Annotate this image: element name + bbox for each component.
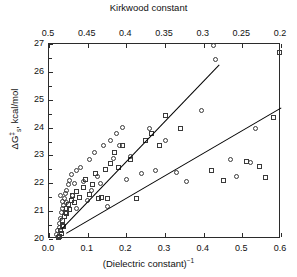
data-point-circle <box>124 177 129 182</box>
data-point-square <box>209 168 214 173</box>
data-point-square <box>67 207 72 212</box>
y-tick <box>49 72 53 73</box>
y-tick-label: 27 <box>26 39 44 48</box>
data-point-square <box>277 50 282 55</box>
data-point-circle <box>92 150 97 155</box>
data-point-square <box>263 175 268 180</box>
data-point-square <box>108 161 113 166</box>
y-tick <box>49 100 53 101</box>
data-point-circle <box>184 179 189 184</box>
x-tick-label: 0.5 <box>231 244 251 253</box>
y-minor-tick <box>49 86 52 87</box>
x-tick-label: 0.4 <box>193 244 213 253</box>
data-point-circle <box>111 156 116 161</box>
x-tick <box>49 233 50 237</box>
top-x-tick <box>126 44 127 48</box>
data-point-square <box>271 115 276 120</box>
data-point-square <box>103 167 108 172</box>
x-tick-label: 0.2 <box>115 244 135 253</box>
y-tick-label: 25 <box>26 95 44 104</box>
data-point-circle <box>153 168 158 173</box>
data-point-circle <box>120 125 125 130</box>
top-x-tick-label: 0.2 <box>268 29 292 38</box>
data-point-square <box>178 126 183 131</box>
data-point-circle <box>213 57 218 62</box>
data-point-circle <box>228 157 233 162</box>
data-point-circle <box>64 188 69 193</box>
y-minor-tick <box>49 58 52 59</box>
data-point-square <box>163 113 168 118</box>
data-point-square <box>257 164 262 169</box>
y-tick-label: 22 <box>26 178 44 187</box>
y-axis-subscript: s <box>15 129 22 132</box>
data-point-square <box>99 195 104 200</box>
data-point-square <box>83 177 88 182</box>
top-axis-title: Kirkwood constant <box>0 3 297 13</box>
x-tick-label: 0.3 <box>154 244 174 253</box>
data-point-square <box>120 143 125 148</box>
x-tick-label: 0.0 <box>38 244 58 253</box>
x-tick <box>204 233 205 237</box>
data-point-square <box>93 171 98 176</box>
scatter-figure: Kirkwood constant (Dielectric constant)−… <box>0 0 297 277</box>
data-point-circle <box>199 108 204 113</box>
y-minor-tick <box>49 225 52 226</box>
y-tick-label: 23 <box>26 150 44 159</box>
y-axis-title: ΔG‡s, kcal/mol <box>8 76 22 162</box>
trend-line-upper-fit <box>61 65 219 230</box>
data-point-square <box>77 195 82 200</box>
top-x-tick-label: 0.35 <box>152 29 176 38</box>
y-axis-doubledagger: ‡ <box>8 132 15 136</box>
y-tick <box>49 44 53 45</box>
top-x-tick <box>281 44 282 48</box>
top-x-tick <box>88 44 89 48</box>
data-point-circle <box>163 138 168 143</box>
x-tick <box>242 233 243 237</box>
data-point-square <box>157 143 162 148</box>
data-point-circle <box>101 143 106 148</box>
data-point-square <box>112 150 117 155</box>
data-point-square <box>90 182 95 187</box>
data-point-square <box>59 231 64 236</box>
data-point-square <box>74 189 79 194</box>
top-x-tick <box>204 44 205 48</box>
y-tick <box>49 183 53 184</box>
data-point-square <box>72 200 77 205</box>
data-point-circle <box>114 131 119 136</box>
x-tick-label: 0.6 <box>270 244 290 253</box>
data-point-circle <box>211 43 216 48</box>
top-x-tick-label: 0.3 <box>191 29 215 38</box>
y-tick <box>49 128 53 129</box>
x-axis-title: (Dielectric constant)−1 <box>0 258 297 269</box>
y-minor-tick <box>49 114 52 115</box>
y-tick <box>49 211 53 212</box>
data-point-circle <box>108 138 113 143</box>
x-tick <box>88 233 89 237</box>
top-x-tick-label: 0.4 <box>113 29 137 38</box>
y-minor-tick <box>49 142 52 143</box>
x-tick <box>281 233 282 237</box>
x-axis-title-text: (Dielectric constant) <box>103 258 187 269</box>
top-x-tick-label: 0.45 <box>75 29 99 38</box>
x-tick <box>126 233 127 237</box>
data-point-circle <box>72 181 77 186</box>
data-point-square <box>244 159 249 164</box>
data-point-circle <box>253 126 258 131</box>
x-tick <box>165 233 166 237</box>
y-tick-label: 24 <box>26 123 44 132</box>
y-tick-label: 21 <box>26 206 44 215</box>
top-x-tick <box>242 44 243 48</box>
x-tick-label: 0.1 <box>77 244 97 253</box>
data-point-square <box>221 178 226 183</box>
data-point-circle <box>78 165 83 170</box>
data-point-square <box>134 196 139 201</box>
data-point-circle <box>139 171 144 176</box>
top-x-tick <box>165 44 166 48</box>
data-point-square <box>105 196 110 201</box>
data-point-circle <box>234 174 239 179</box>
y-tick <box>49 239 53 240</box>
top-x-tick-label: 0.25 <box>229 29 253 38</box>
top-x-tick-label: 0.5 <box>36 29 60 38</box>
data-point-circle <box>87 157 92 162</box>
y-tick-label: 26 <box>26 67 44 76</box>
